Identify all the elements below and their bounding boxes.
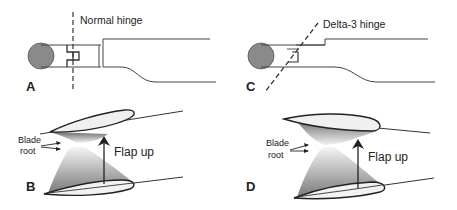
panel-c: Delta-3 hinge C: [246, 18, 435, 94]
hub-icon: [28, 43, 54, 69]
flap-up-label: Flap up: [114, 145, 154, 159]
panel-letter-b: B: [26, 179, 35, 194]
blade-root-label: Blade: [266, 138, 289, 148]
hub-icon: [248, 43, 274, 69]
panel-d: Flap up Blade root D: [246, 114, 434, 199]
upper-airfoil: [284, 114, 380, 131]
delta-3-hinge-icon: [288, 52, 298, 62]
rotor-hinge-diagram: Normal hinge A Delta-3 hinge C: [0, 0, 457, 210]
delta-3-hinge-label: Delta-3 hinge: [323, 18, 386, 30]
flap-up-label: Flap up: [368, 150, 408, 164]
blade-root-label-line2: root: [268, 150, 284, 160]
panel-letter-c: C: [246, 79, 256, 94]
panel-b: Flap up Blade root B: [18, 110, 183, 196]
panel-a: Normal hinge A: [26, 12, 216, 94]
normal-hinge-label: Normal hinge: [80, 14, 143, 26]
blade-root-label-line2: root: [20, 146, 36, 156]
blade-root-label: Blade: [18, 135, 41, 145]
panel-letter-a: A: [26, 79, 36, 94]
panel-letter-d: D: [246, 179, 255, 194]
upper-airfoil: [50, 110, 134, 132]
